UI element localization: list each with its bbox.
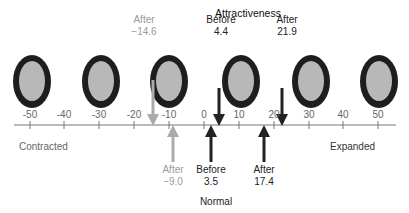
tick-label: -50: [15, 109, 45, 120]
label-text: After: [153, 164, 193, 176]
label-text: After: [244, 164, 284, 176]
tick-label: -10: [154, 109, 184, 120]
label-value: −9.0: [153, 176, 193, 188]
label-value: 3.5: [191, 176, 231, 188]
bottom-label-before: Before 3.5: [191, 164, 231, 188]
tick-label: -30: [84, 109, 114, 120]
normal-label: Normal: [191, 196, 241, 208]
contracted-label: Contracted: [19, 141, 68, 153]
tick-label: 40: [328, 109, 358, 120]
tick-label: 20: [259, 109, 289, 120]
tick-label: -20: [119, 109, 149, 120]
expanded-label: Expanded: [330, 141, 375, 153]
tick-label: 30: [294, 109, 324, 120]
tick-label: 0: [189, 109, 219, 120]
tick-label: -40: [49, 109, 79, 120]
bottom-label-after-expanded: After 17.4: [244, 164, 284, 188]
label-value: 17.4: [244, 176, 284, 188]
tick-label: 10: [224, 109, 254, 120]
bottom-label-after-contracted: After −9.0: [153, 164, 193, 188]
label-text: Before: [191, 164, 231, 176]
tick-label: 50: [363, 109, 393, 120]
